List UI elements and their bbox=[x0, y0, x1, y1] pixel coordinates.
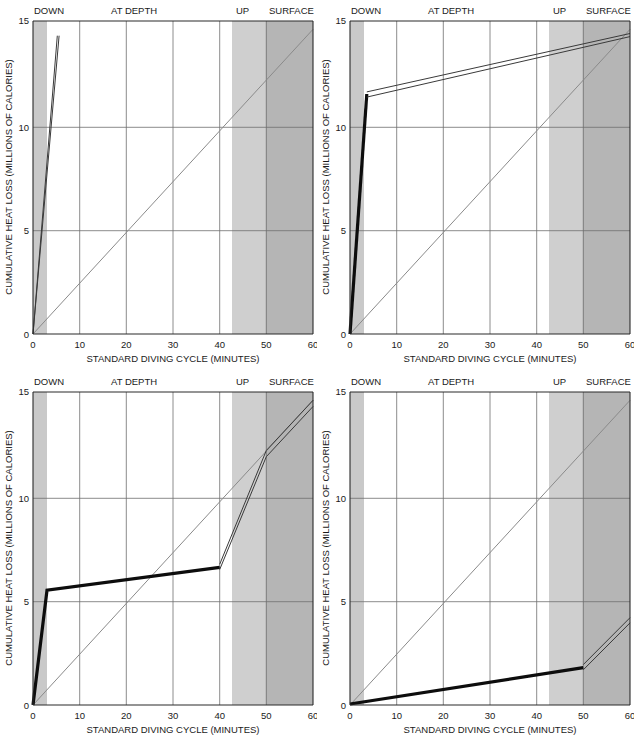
chart-svg-bottom-left: DOWN AT DEPTH UP SURFACE 15 10 5 0 0 10 … bbox=[0, 371, 317, 742]
chart-panel-top-right: DOWN AT DEPTH UP SURFACE 15 10 5 0 0 10 … bbox=[317, 0, 634, 371]
phase-label-up: UP bbox=[236, 5, 249, 16]
xtick-40: 40 bbox=[214, 710, 225, 721]
phase-label-down: DOWN bbox=[34, 376, 64, 387]
phase-label-surface: SURFACE bbox=[586, 5, 631, 16]
xtick-40: 40 bbox=[214, 339, 225, 350]
band-up bbox=[232, 21, 266, 334]
x-axis-title: STANDARD DIVING CYCLE (MINUTES) bbox=[404, 353, 577, 364]
phase-label-at-depth: AT DEPTH bbox=[111, 5, 157, 16]
band-up bbox=[549, 21, 583, 334]
xtick-30: 30 bbox=[485, 339, 496, 350]
x-axis-title: STANDARD DIVING CYCLE (MINUTES) bbox=[87, 724, 260, 735]
xtick-30: 30 bbox=[168, 710, 179, 721]
ytick-15: 15 bbox=[335, 386, 346, 397]
xtick-10: 10 bbox=[74, 339, 85, 350]
xtick-60: 60 bbox=[625, 710, 634, 721]
phase-label-surface: SURFACE bbox=[269, 376, 314, 387]
xtick-60: 60 bbox=[308, 710, 317, 721]
xtick-0: 0 bbox=[30, 710, 35, 721]
band-at-depth bbox=[47, 392, 232, 705]
band-up bbox=[549, 392, 583, 705]
xtick-40: 40 bbox=[531, 339, 542, 350]
xtick-0: 0 bbox=[30, 339, 35, 350]
phase-label-surface: SURFACE bbox=[269, 5, 314, 16]
xtick-30: 30 bbox=[168, 339, 179, 350]
band-up bbox=[232, 392, 266, 705]
ytick-5: 5 bbox=[341, 225, 346, 236]
band-at-depth bbox=[364, 392, 549, 705]
xtick-40: 40 bbox=[531, 710, 542, 721]
chart-svg-top-right: DOWN AT DEPTH UP SURFACE 15 10 5 0 0 10 … bbox=[317, 0, 634, 371]
ytick-10: 10 bbox=[18, 493, 29, 504]
xtick-0: 0 bbox=[347, 339, 352, 350]
xtick-20: 20 bbox=[121, 710, 132, 721]
four-panel-figure: DOWN AT DEPTH UP SURFACE 15 10 5 0 0 10 … bbox=[0, 0, 634, 742]
phase-label-up: UP bbox=[553, 5, 566, 16]
y-axis-title: CUMULATIVE HEAT LOSS (MILLIONS OF CALORI… bbox=[3, 59, 14, 294]
xtick-50: 50 bbox=[261, 339, 272, 350]
chart-panel-top-left: DOWN AT DEPTH UP SURFACE 15 10 5 0 0 10 … bbox=[0, 0, 317, 371]
xtick-30: 30 bbox=[485, 710, 496, 721]
chart-panel-bottom-right: DOWN AT DEPTH UP SURFACE 15 10 5 0 0 10 … bbox=[317, 371, 634, 742]
band-surface bbox=[266, 392, 313, 705]
chart-svg-top-left: DOWN AT DEPTH UP SURFACE 15 10 5 0 0 10 … bbox=[0, 0, 317, 371]
xtick-20: 20 bbox=[438, 339, 449, 350]
xtick-10: 10 bbox=[74, 710, 85, 721]
band-surface bbox=[583, 21, 630, 334]
ytick-10: 10 bbox=[335, 493, 346, 504]
band-at-depth bbox=[47, 21, 232, 334]
xtick-10: 10 bbox=[391, 339, 402, 350]
phase-label-down: DOWN bbox=[34, 5, 64, 16]
ytick-15: 15 bbox=[18, 386, 29, 397]
xtick-20: 20 bbox=[121, 339, 132, 350]
xtick-50: 50 bbox=[578, 339, 589, 350]
xtick-50: 50 bbox=[261, 710, 272, 721]
phase-label-up: UP bbox=[553, 376, 566, 387]
xtick-60: 60 bbox=[308, 339, 317, 350]
chart-svg-bottom-right: DOWN AT DEPTH UP SURFACE 15 10 5 0 0 10 … bbox=[317, 371, 634, 742]
chart-panel-bottom-left: DOWN AT DEPTH UP SURFACE 15 10 5 0 0 10 … bbox=[0, 371, 317, 742]
y-axis-title: CUMULATIVE HEAT LOSS (MILLIONS OF CALORI… bbox=[3, 430, 14, 665]
phase-label-at-depth: AT DEPTH bbox=[428, 5, 474, 16]
xtick-60: 60 bbox=[625, 339, 634, 350]
ytick-10: 10 bbox=[18, 122, 29, 133]
ytick-0: 0 bbox=[24, 700, 29, 711]
xtick-20: 20 bbox=[438, 710, 449, 721]
phase-label-surface: SURFACE bbox=[586, 376, 631, 387]
ytick-0: 0 bbox=[24, 329, 29, 340]
x-axis-title: STANDARD DIVING CYCLE (MINUTES) bbox=[404, 724, 577, 735]
ytick-15: 15 bbox=[18, 15, 29, 26]
phase-label-down: DOWN bbox=[351, 5, 381, 16]
ytick-5: 5 bbox=[341, 596, 346, 607]
ytick-5: 5 bbox=[24, 596, 29, 607]
ytick-15: 15 bbox=[335, 15, 346, 26]
xtick-10: 10 bbox=[391, 710, 402, 721]
ytick-5: 5 bbox=[24, 225, 29, 236]
x-axis-title: STANDARD DIVING CYCLE (MINUTES) bbox=[87, 353, 260, 364]
xtick-50: 50 bbox=[578, 710, 589, 721]
ytick-10: 10 bbox=[335, 122, 346, 133]
phase-label-at-depth: AT DEPTH bbox=[111, 376, 157, 387]
band-down bbox=[33, 21, 47, 334]
y-axis-title: CUMULATIVE HEAT LOSS (MILLIONS OF CALORI… bbox=[320, 59, 331, 294]
ytick-0: 0 bbox=[341, 700, 346, 711]
band-at-depth bbox=[364, 21, 549, 334]
xtick-0: 0 bbox=[347, 710, 352, 721]
band-down bbox=[350, 392, 364, 705]
phase-label-up: UP bbox=[236, 376, 249, 387]
phase-label-at-depth: AT DEPTH bbox=[428, 376, 474, 387]
y-axis-title: CUMULATIVE HEAT LOSS (MILLIONS OF CALORI… bbox=[320, 430, 331, 665]
band-surface bbox=[266, 21, 313, 334]
ytick-0: 0 bbox=[341, 329, 346, 340]
phase-label-down: DOWN bbox=[351, 376, 381, 387]
